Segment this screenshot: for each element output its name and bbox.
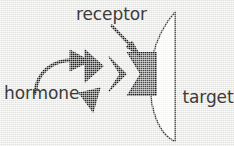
hormone-triangle-free-lower-shape bbox=[79, 88, 100, 112]
label-target-cell-line-1: target bbox=[182, 88, 234, 107]
label-receptor: receptor bbox=[76, 5, 147, 24]
label-target-cell: target cell bbox=[182, 50, 234, 146]
hormone-triangle-free-upper-shape bbox=[85, 50, 103, 82]
label-hormone: hormone bbox=[4, 84, 79, 103]
receptor-block-shape bbox=[128, 53, 156, 95]
hormone-triangle-bound-shape bbox=[109, 57, 126, 91]
hormone-receptor-diagram: receptor hormone target cell bbox=[0, 0, 234, 146]
